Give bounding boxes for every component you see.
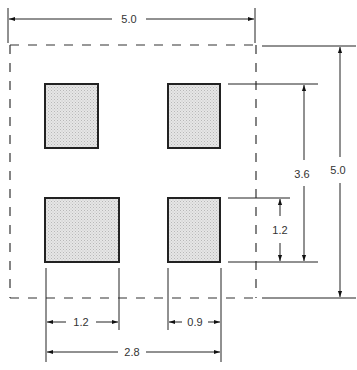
pad-top-left [45, 84, 98, 148]
dimension-pad-width-right: 0.9 [169, 316, 220, 328]
dimension-pad-width-left: 1.2 [47, 316, 118, 328]
pad-bottom-right [168, 198, 220, 262]
dimension-label-pad-pitch-vertical: 3.6 [294, 168, 309, 180]
dimension-label-pad-height: 1.2 [272, 224, 287, 236]
dimension-pad-height: 1.2 [228, 198, 290, 261]
dimension-label-pad-width-left: 1.2 [73, 316, 88, 328]
dimension-label-pad-span-horizontal: 2.8 [124, 346, 139, 358]
land-pattern-diagram: 5.0 5.0 3.6 1.2 1.2 0.9 [0, 0, 357, 370]
dimension-label-overall-height: 5.0 [330, 164, 345, 176]
dimension-pad-span-horizontal: 2.8 [47, 346, 220, 358]
dimension-overall-width: 5.0 [8, 8, 255, 43]
dimension-label-pad-width-right: 0.9 [187, 316, 202, 328]
dimension-label-overall-width: 5.0 [121, 13, 136, 25]
pad-top-right [168, 84, 220, 148]
pad-bottom-left [45, 198, 119, 262]
pads [45, 84, 220, 262]
